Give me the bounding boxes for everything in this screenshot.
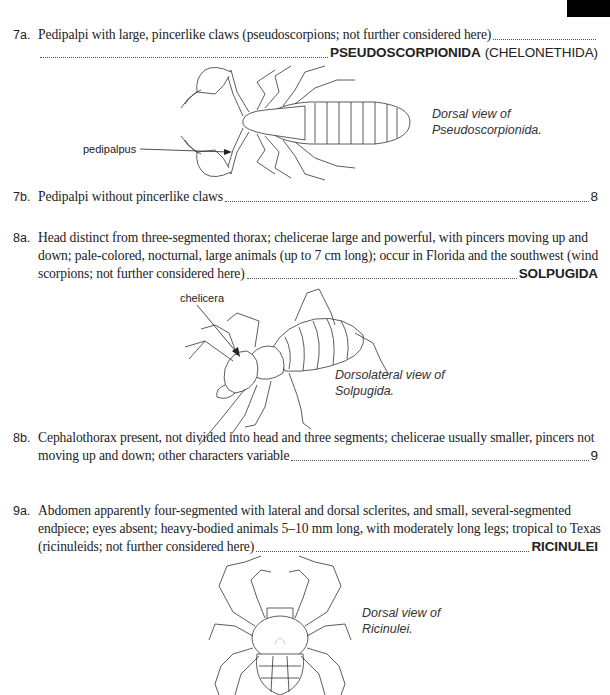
couplet-line: Pedipalpi without pincerlike claws — [38, 188, 223, 206]
figure-caption-solpugida: Dorsolateral view of Solpugida. — [335, 367, 445, 399]
caption-line: Pseudoscorpionida. — [432, 122, 542, 138]
couplet-line: endpiece; eyes absent; heavy-bodied anim… — [38, 520, 601, 538]
couplet-number: 7a. — [13, 26, 30, 44]
couplet-line: down; pale-colored, nocturnal, large ani… — [38, 247, 598, 265]
leader-dots — [225, 201, 589, 202]
lead-to-couplet[interactable]: 9 — [591, 447, 598, 465]
couplet-text: Pedipalpi without pincerlike claws8 — [38, 188, 598, 206]
lead-to-couplet[interactable]: 8 — [591, 188, 598, 206]
couplet-line: moving up and down; other characters var… — [38, 447, 289, 465]
caption-line: Dorsal view of — [432, 106, 542, 122]
couplet-line: Abdomen apparently four-segmented with l… — [38, 502, 571, 520]
couplet-number: 7b. — [13, 188, 30, 206]
pseudoscorpion-illustration — [195, 64, 420, 182]
pointer-arrow — [140, 145, 232, 155]
couplet-line: (ricinuleids; not further considered her… — [38, 538, 254, 556]
taxon-name: PSEUDOSCORPIONIDA — [330, 44, 481, 62]
pedipalpus-label: pedipalpus — [83, 143, 136, 155]
page-tab-marker — [567, 0, 610, 17]
couplet-number: 8b. — [13, 429, 30, 447]
couplet-text: Cephalothorax present, not divided into … — [38, 429, 598, 465]
leader-dots — [40, 57, 328, 58]
taxon-name: RICINULEI — [531, 538, 598, 556]
caption-line: Dorsolateral view of — [335, 367, 445, 383]
solpugid-illustration — [185, 285, 405, 445]
caption-line: Dorsal view of — [362, 605, 441, 621]
couplet-text: Head distinct from three-segmented thora… — [38, 229, 598, 283]
couplet-line: Pedipalpi with large, pincerlike claws (… — [38, 26, 491, 44]
taxon-synonym: (CHELONETHIDA) — [485, 44, 598, 62]
figure-caption-ricinulei: Dorsal view of Ricinulei. — [362, 605, 441, 637]
taxon-name: SOLPUGIDA — [519, 265, 598, 283]
leader-dots — [256, 551, 529, 552]
couplet-text: Pedipalpi with large, pincerlike claws (… — [38, 26, 598, 62]
leader-dots — [247, 278, 517, 279]
couplet-text: Abdomen apparently four-segmented with l… — [38, 502, 598, 556]
couplet-line: Head distinct from three-segmented thora… — [38, 229, 588, 247]
couplet-number: 9a. — [13, 502, 30, 520]
leader-dots — [291, 460, 588, 461]
caption-line: Ricinulei. — [362, 621, 441, 637]
figure-caption-pseudoscorpionida: Dorsal view of Pseudoscorpionida. — [432, 106, 542, 138]
couplet-line: Cephalothorax present, not divided into … — [38, 429, 594, 447]
leader-dots — [493, 39, 596, 40]
caption-line: Solpugida. — [335, 383, 445, 399]
couplet-line: scorpions; not further considered here) — [38, 265, 245, 283]
couplet-number: 8a. — [13, 229, 30, 247]
ricinuleid-illustration — [205, 556, 355, 695]
